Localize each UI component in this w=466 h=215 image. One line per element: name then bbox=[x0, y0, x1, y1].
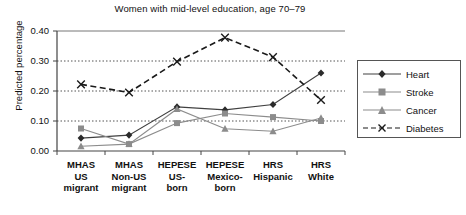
y-tick-label: 0.10 bbox=[19, 115, 49, 126]
chart-figure: Women with mid-level education, age 70–7… bbox=[0, 0, 466, 215]
legend-swatch-cancer-icon bbox=[362, 103, 402, 117]
legend-swatch-heart-icon bbox=[362, 67, 402, 81]
x-tick-label: HRS White bbox=[293, 159, 349, 182]
gridlines bbox=[57, 61, 345, 121]
legend-swatch-stroke-icon bbox=[362, 85, 402, 99]
legend-item-heart: Heart bbox=[358, 65, 460, 83]
legend-label-stroke: Stroke bbox=[406, 87, 433, 98]
legend-label-cancer: Cancer bbox=[406, 105, 437, 116]
y-tick-label: 0.20 bbox=[19, 85, 49, 96]
legend-swatch-diabetes-icon bbox=[362, 121, 402, 135]
y-tick-label: 0.00 bbox=[19, 145, 49, 156]
y-tick-label: 0.30 bbox=[19, 55, 49, 66]
legend-label-heart: Heart bbox=[406, 69, 429, 80]
axis-ticks bbox=[53, 31, 345, 155]
legend-label-diabetes: Diabetes bbox=[406, 123, 444, 134]
chart-legend: Heart Stroke Cancer Diabetes bbox=[357, 60, 461, 138]
legend-item-cancer: Cancer bbox=[358, 101, 460, 119]
legend-item-diabetes: Diabetes bbox=[358, 119, 460, 137]
y-tick-label: 0.40 bbox=[19, 25, 49, 36]
legend-item-stroke: Stroke bbox=[358, 83, 460, 101]
